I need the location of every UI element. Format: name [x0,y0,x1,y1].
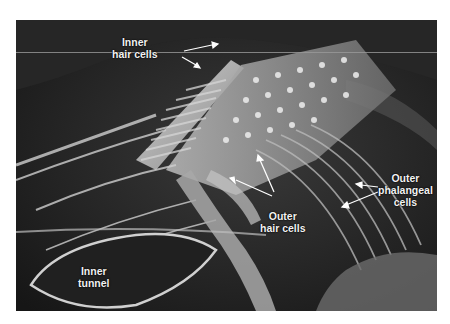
label-inner-hair-cells: Inner hair cells [112,36,158,60]
label-line: phalangeal [378,184,433,196]
label-outer-hair-cells: Outer hair cells [260,210,306,234]
label-line: Inner [112,36,158,48]
label-line: tunnel [78,277,110,289]
label-line: hair cells [260,222,306,234]
label-line: cells [378,196,433,208]
label-line: Outer [260,210,306,222]
label-outer-phalangeal-cells: Outer phalangeal cells [378,172,433,208]
label-inner-tunnel: Inner tunnel [78,265,110,289]
micrograph-image: Inner hair cells Outer phalangeal cells … [16,20,437,311]
scan-line-artifact [16,52,437,53]
label-line: hair cells [112,48,158,60]
label-line: Outer [378,172,433,184]
label-line: Inner [78,265,110,277]
